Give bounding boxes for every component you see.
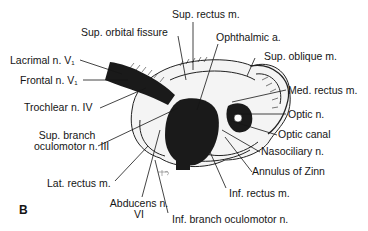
label-annulus-of-zinn: Annulus of Zinn bbox=[252, 166, 325, 177]
label-inf-rectus: Inf. rectus m. bbox=[229, 188, 290, 199]
label-sup-rectus: Sup. rectus m. bbox=[172, 9, 240, 20]
label-lacrimal-nerve: Lacrimal n. V1 bbox=[10, 55, 75, 69]
label-sup-oblique: Sup. oblique m. bbox=[264, 51, 337, 62]
label-med-rectus: Med. rectus m. bbox=[288, 85, 357, 96]
label-sup-orbital-fissure: Sup. orbital fissure bbox=[81, 27, 168, 38]
label-frontal-nerve: Frontal n. V1 bbox=[20, 75, 78, 89]
label-ophthalmic-artery: Ophthalmic a. bbox=[216, 32, 281, 43]
label-inf-branch-oculomotor: Inf. branch oculomotor n. bbox=[172, 214, 288, 225]
label-optic-nerve: Optic n. bbox=[288, 109, 324, 120]
label-trochlear-nerve: Trochlear n. IV bbox=[24, 102, 92, 113]
label-sup-branch-oculomotor: Sup. branch oculomotor n. III bbox=[34, 130, 100, 152]
label-optic-canal: Optic canal bbox=[278, 129, 331, 140]
anatomy-figure: Sup. rectus m. Sup. orbital fissure Opht… bbox=[0, 0, 368, 231]
label-nasociliary-nerve: Nasociliary n. bbox=[261, 146, 324, 157]
panel-label: B bbox=[19, 203, 28, 217]
label-abducens-nerve: Abducens n. VI bbox=[104, 198, 174, 220]
label-lat-rectus: Lat. rectus m. bbox=[47, 178, 111, 189]
